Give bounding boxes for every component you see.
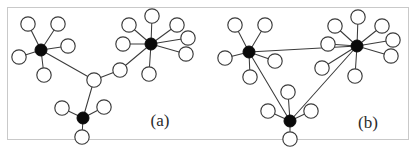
leaf-node [142,67,156,81]
leaf-node [348,69,362,83]
leaf-node [321,37,335,51]
leaf-node [113,63,127,77]
leaf-node [116,37,130,51]
hub-node [284,115,296,127]
leaf-node [218,51,232,65]
leaf-node [75,130,89,144]
leaf-node [228,18,242,32]
hub-node [243,46,255,58]
hub-node [77,112,89,124]
leaf-node [12,50,26,64]
leaf-node [375,19,389,33]
leaf-node [145,9,159,23]
panel-a-label: (a) [151,111,170,130]
hub-node [145,38,157,50]
leaf-node [97,100,111,114]
leaf-node [386,33,400,47]
leaf-node [61,39,75,53]
leaf-node [181,31,195,45]
leaf-node [304,104,318,118]
leaf-node [315,61,329,75]
leaf-node [55,101,69,115]
leaf-node [51,17,65,31]
network-diagram-svg: (a) (b) [0,0,416,153]
leaf-node [37,68,51,82]
hub-node [351,40,363,52]
leaf-node [243,70,257,84]
hub-node [35,44,47,56]
panel-b-label: (b) [358,113,378,132]
leaf-node [268,54,282,68]
leaf-node [281,85,295,99]
leaf-node [328,19,342,33]
leaf-node [21,17,35,31]
leaf-node [261,104,275,118]
leaf-node [122,18,136,32]
figure-root: (a) (b) [0,0,416,153]
leaf-node [179,47,193,61]
leaf-node [258,18,272,32]
leaf-node [87,73,101,87]
leaf-node [384,49,398,63]
leaf-node [170,18,184,32]
leaf-node [283,132,297,146]
leaf-node [351,10,365,24]
